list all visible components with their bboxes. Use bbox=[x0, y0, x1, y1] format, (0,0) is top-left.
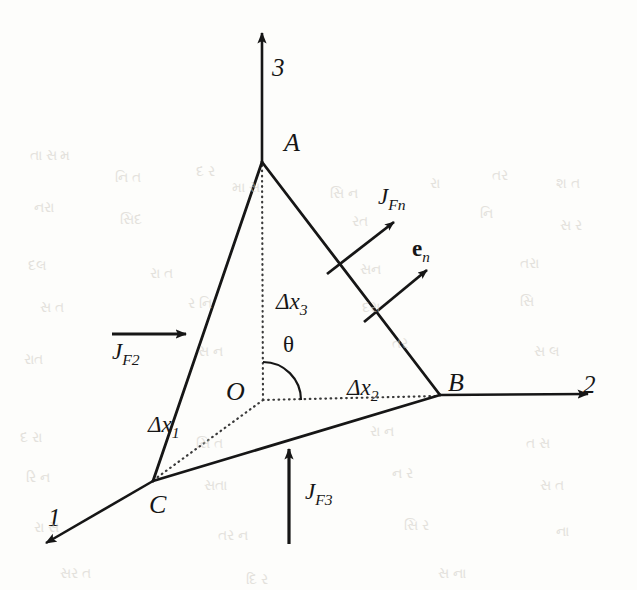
jf3-base: J bbox=[305, 479, 315, 504]
edge-label-delta-x3: Δx3 bbox=[276, 290, 308, 317]
delta-x1-base: Δx bbox=[148, 412, 172, 437]
jfn-base: J bbox=[378, 184, 388, 209]
jfn-sub: Fn bbox=[388, 196, 405, 213]
vertex-label-a: A bbox=[284, 130, 300, 156]
edge-o-a-dotted bbox=[262, 164, 263, 400]
vertex-label-b: B bbox=[448, 370, 464, 396]
axis-1-line bbox=[46, 481, 153, 543]
jf2-base: J bbox=[112, 339, 122, 364]
theta-arc bbox=[263, 362, 301, 400]
axis-label-1: 1 bbox=[48, 505, 61, 530]
edge-label-delta-x1: Δx1 bbox=[148, 413, 180, 440]
coordinate-axes bbox=[46, 33, 588, 543]
axis-label-3: 3 bbox=[272, 55, 285, 80]
vertex-label-c: C bbox=[149, 492, 166, 518]
figure-root: 3 2 1 A B C O Δx1 Δx2 Δx3 θ JF2 JF3 JFn … bbox=[0, 0, 637, 590]
delta-x3-sub: 3 bbox=[300, 301, 308, 318]
theta-label: θ bbox=[283, 333, 294, 356]
edge-label-delta-x2: Δx2 bbox=[347, 376, 379, 403]
jf3-sub: F3 bbox=[315, 491, 332, 508]
delta-x2-sub: 2 bbox=[371, 387, 379, 404]
unit-normal-label: en bbox=[412, 237, 430, 264]
delta-x1-sub: 1 bbox=[172, 424, 180, 441]
delta-x3-base: Δx bbox=[276, 289, 300, 314]
edge-c-b bbox=[153, 395, 440, 481]
jf2-sub: F2 bbox=[122, 351, 139, 368]
en-base: e bbox=[412, 236, 422, 261]
flux-label-jf3: JF3 bbox=[305, 480, 333, 507]
delta-x2-base: Δx bbox=[347, 375, 371, 400]
edge-a-b bbox=[262, 162, 440, 395]
en-sub: n bbox=[422, 248, 430, 265]
axis-label-2: 2 bbox=[583, 372, 596, 397]
vertex-label-o: O bbox=[226, 379, 245, 405]
flux-jfn-arrow bbox=[327, 222, 394, 274]
flux-label-jf2: JF2 bbox=[112, 340, 140, 367]
flux-label-jfn: JFn bbox=[378, 185, 406, 212]
unit-normal-arrow bbox=[364, 270, 427, 322]
